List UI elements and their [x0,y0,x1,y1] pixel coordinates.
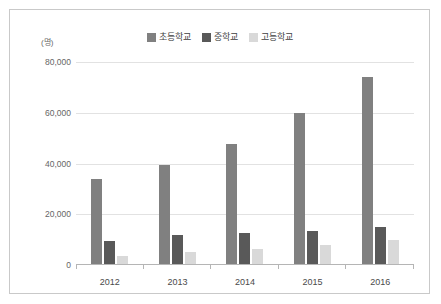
bar-2013-초등학교 [159,165,170,265]
bar-2015-중학교 [307,231,318,265]
legend-swatch-high [249,33,258,42]
y-axis-tick-label: 20,000 [45,209,71,219]
bar-group-2014: 2014 [211,62,279,265]
gridline: 0 [76,265,414,266]
bar-group-2015: 2015 [279,62,347,265]
legend-item-middle: 중학교 [202,32,238,42]
y-axis-tick-label: 40,000 [45,159,71,169]
bar-2012-중학교 [104,241,115,265]
bar-2014-중학교 [239,233,250,265]
chart-legend: 초등학교 중학교 고등학교 [10,32,429,42]
y-axis-tick-label: 80,000 [45,57,71,67]
bar-2016-고등학교 [388,240,399,265]
legend-swatch-middle [202,33,211,42]
x-axis-line [76,264,414,265]
bar-2013-중학교 [172,235,183,265]
bar-2016-중학교 [375,227,386,265]
bar-group-2012: 2012 [76,62,144,265]
legend-item-elementary: 초등학교 [147,32,191,42]
bar-group-2013: 2013 [144,62,212,265]
chart-frame: 초등학교 중학교 고등학교 (명) 020,00040,00060,00080,… [9,9,430,294]
legend-label-high: 고등학교 [261,32,293,42]
bar-2016-초등학교 [362,77,373,265]
legend-item-high: 고등학교 [249,32,293,42]
x-axis-tick-label: 2014 [211,277,279,287]
x-axis-tick-label: 2013 [144,277,212,287]
bar-2015-고등학교 [320,245,331,265]
legend-label-middle: 중학교 [214,32,238,42]
bar-2012-초등학교 [91,179,102,265]
y-axis-tick-label: 60,000 [45,108,71,118]
legend-label-elementary: 초등학교 [159,32,191,42]
bar-2015-초등학교 [294,113,305,265]
plot-area: 020,00040,00060,00080,000 20122013201420… [76,62,414,265]
x-axis-tick-label: 2012 [76,277,144,287]
bar-group-2016: 2016 [346,62,414,265]
bar-groups: 20122013201420152016 [76,62,414,265]
y-axis-tick-label: 0 [66,260,71,270]
x-axis-tick-label: 2016 [346,277,414,287]
legend-swatch-elementary [147,33,156,42]
bar-2014-고등학교 [252,249,263,265]
bar-2014-초등학교 [226,144,237,265]
y-axis-unit-label: (명) [41,36,53,47]
x-axis-tick-label: 2015 [279,277,347,287]
